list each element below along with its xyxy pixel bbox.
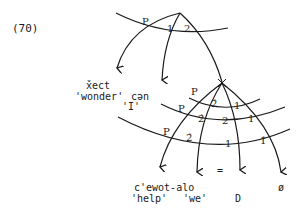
row3-b: 1 bbox=[225, 138, 231, 149]
bottom-arrow-4 bbox=[222, 83, 281, 172]
output-word-help: c'ewot-alo bbox=[134, 182, 194, 193]
top-label-2: 2 bbox=[184, 23, 190, 34]
equals-sign: = bbox=[217, 165, 223, 176]
top-label-1: 1 bbox=[167, 23, 173, 34]
row2-b: 2 bbox=[222, 115, 228, 126]
row1-a: 2̂ bbox=[211, 98, 217, 109]
bottom-arrow-2 bbox=[197, 83, 222, 172]
row3-c: 1̂ bbox=[260, 135, 266, 146]
output-gloss-wonder: 'wonder' bbox=[75, 91, 123, 102]
row3-a: 2̂ bbox=[186, 132, 192, 143]
output-null: ø bbox=[278, 182, 284, 193]
row2-c: 1 bbox=[248, 113, 254, 124]
top-label-p: P bbox=[142, 16, 149, 27]
example-number: (70) bbox=[12, 23, 39, 34]
row2-a: 2̂ bbox=[198, 113, 204, 124]
row1-p: P bbox=[191, 86, 198, 97]
row3-p: P bbox=[163, 126, 170, 137]
row1-b: 1 bbox=[234, 100, 240, 111]
output-suffix-gloss: 'I' bbox=[122, 101, 140, 112]
output-d: D bbox=[235, 193, 241, 204]
output-gloss-help: 'help' bbox=[131, 193, 167, 204]
row2-p: P bbox=[178, 103, 185, 114]
output-word-wonder: x̌ect bbox=[86, 80, 110, 91]
output-gloss-we: 'we' bbox=[183, 193, 207, 204]
